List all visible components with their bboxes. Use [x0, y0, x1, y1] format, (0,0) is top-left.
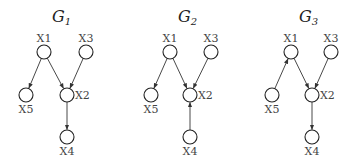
- node-label-x4: X4: [183, 145, 198, 158]
- graph-2: G2X1X3X5X2X4: [144, 7, 219, 158]
- node-label-x5: X5: [265, 103, 280, 116]
- edge-x5-to-x1: [275, 59, 288, 89]
- graph-title: G1: [52, 7, 71, 27]
- dag-comparison-diagram: G1X1X3X5X2X4G2X1X3X5X2X4G3X1X3X5X2X4: [0, 0, 358, 168]
- node-label-x2: X2: [198, 89, 213, 102]
- node-x3: [324, 45, 338, 59]
- graph-title: G2: [178, 7, 197, 27]
- node-x2: [305, 88, 319, 102]
- node-label-x4: X4: [305, 145, 320, 158]
- edge-x1-to-x2: [47, 58, 63, 88]
- graphs-layer: G1X1X3X5X2X4G2X1X3X5X2X4G3X1X3X5X2X4: [19, 7, 339, 158]
- node-x2: [60, 88, 74, 102]
- node-label-x2: X2: [320, 89, 335, 102]
- node-label-x1: X1: [37, 32, 52, 45]
- node-x4: [305, 130, 319, 144]
- node-x1: [163, 45, 177, 59]
- node-x5: [144, 88, 158, 102]
- edge-x3-to-x2: [315, 58, 328, 88]
- node-x3: [204, 45, 218, 59]
- edge-x3-to-x2: [193, 58, 208, 88]
- node-label-x4: X4: [60, 145, 75, 158]
- edge-x1-to-x2: [294, 58, 309, 88]
- node-label-x3: X3: [79, 32, 94, 45]
- node-label-x1: X1: [284, 32, 299, 45]
- node-label-x5: X5: [19, 103, 34, 116]
- node-label-x2: X2: [75, 89, 90, 102]
- edge-x3-to-x2: [70, 58, 83, 88]
- graph-1: G1X1X3X5X2X4: [19, 7, 94, 158]
- node-x2: [183, 88, 197, 102]
- node-x3: [79, 45, 93, 59]
- node-x5: [19, 88, 33, 102]
- node-x4: [183, 130, 197, 144]
- graph-title: G3: [299, 7, 318, 27]
- edge-x1-to-x5: [154, 58, 167, 88]
- graph-3: G3X1X3X5X2X4: [265, 7, 339, 158]
- node-label-x3: X3: [204, 32, 219, 45]
- edge-x1-to-x5: [29, 58, 41, 88]
- node-label-x3: X3: [324, 32, 339, 45]
- edge-x1-to-x2: [173, 58, 187, 88]
- node-x5: [265, 88, 279, 102]
- node-x4: [60, 130, 74, 144]
- node-x1: [284, 45, 298, 59]
- node-label-x5: X5: [144, 103, 159, 116]
- node-x1: [37, 45, 51, 59]
- node-label-x1: X1: [163, 32, 178, 45]
